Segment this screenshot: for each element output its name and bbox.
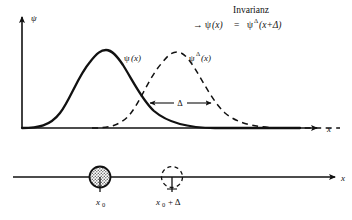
x-axis-label-upper: x [326,124,331,134]
equation-arrow: → [193,20,203,30]
x-axis-label-lower: x [340,173,345,183]
curve-label-psi-symbol: ψ [124,53,130,63]
equation-equals: = [234,20,239,30]
tick-label-x0-plus-delta: x 0 + Δ [155,197,181,208]
note-title: Invarianz [233,5,269,15]
equation-rhs-symbol: ψ [247,20,253,30]
equation-rhs-superscript: Δ [254,17,258,24]
curve-psi-solid [22,50,300,128]
equation-rhs-arg: (x+Δ) [259,20,282,31]
upper-plot-axes [22,17,317,128]
figure-canvas: Invarianz → ψ (x) = ψ Δ (x+Δ) ψ x ψ (x) … [0,0,352,220]
tick-label-x0-subscript: 0 [102,201,105,208]
tick-label-x0: x 0 [95,197,105,208]
invariance-figure: Invarianz → ψ (x) = ψ Δ (x+Δ) ψ x ψ (x) … [0,0,352,220]
curve-label-psi-delta-symbol: ψ [189,53,195,63]
tick-label-x0-plus-delta-subscript: 0 [162,201,165,208]
equation-lhs-symbol: ψ [205,20,211,30]
tick-label-x0-plus-delta-symbol: x [155,197,160,207]
tick-label-x0-plus-delta-suffix: + Δ [168,197,181,207]
tick-label-x0-symbol: x [95,197,100,207]
y-axis-label: ψ [31,13,37,23]
curve-psi-delta-dashed [92,52,340,128]
lower-axis-group [13,167,335,193]
wavefunction-curves [22,50,340,128]
curve-label-psi-arg: (x) [131,53,141,63]
curve-label-psi-delta-arg: (x) [201,53,211,63]
invariance-equation: → ψ (x) = ψ Δ (x+Δ) [193,17,282,31]
curve-label-psi: ψ (x) [124,53,141,63]
curve-label-psi-delta-superscript: Δ [196,50,200,57]
curve-label-psi-delta: ψ Δ (x) [189,50,211,63]
shift-delta-label: Δ [177,98,183,108]
marker-x0-plus-delta [162,167,183,193]
marker-x0 [90,167,111,193]
equation-lhs-arg: (x) [212,20,223,31]
